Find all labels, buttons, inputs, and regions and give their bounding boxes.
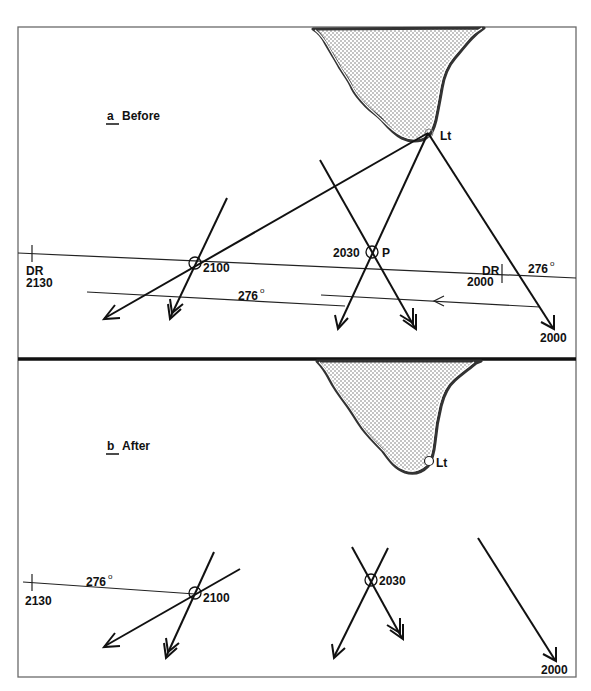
double-arrowhead-icon	[400, 308, 413, 323]
panel-a-title: a Before	[106, 109, 160, 124]
fix-p-label: P	[382, 246, 390, 260]
track-line-lower-left	[87, 292, 345, 306]
light-marker-b	[425, 457, 434, 466]
arrowhead-icon	[541, 315, 554, 329]
fix-2100-label-b: 2100	[203, 591, 230, 605]
course-label-right-a: 276	[528, 262, 548, 276]
transferred-line-2030	[320, 160, 415, 328]
position-line-2000-b	[478, 538, 555, 660]
svg-text:Before: Before	[122, 109, 160, 123]
light-label-a: Lt	[440, 129, 451, 143]
dr-2130-label-b: 2130	[25, 594, 52, 608]
bearing-2000-label-a: 2000	[540, 331, 567, 345]
svg-text:a: a	[107, 109, 114, 123]
position-line-2030-a-b	[352, 547, 402, 638]
course-label-b: 276	[86, 575, 106, 589]
panel-b-title: b After	[106, 439, 150, 454]
panel-a: Lt a Before DR 2130 DR 2000 276 o 276 o …	[18, 28, 576, 345]
dr-2000-time: 2000	[467, 275, 494, 289]
headland-b	[317, 361, 481, 473]
dr-2130-time-a: 2130	[26, 276, 53, 290]
dr-course-line-b	[23, 582, 195, 594]
fix-2030-label-b: 2030	[379, 574, 406, 588]
arrowhead-icon	[104, 633, 120, 647]
light-label-b: Lt	[436, 456, 447, 470]
panel-b: Lt b After 2130 276 o 2100 2030 2000	[23, 361, 568, 677]
running-fix-diagram: Lt a Before DR 2130 DR 2000 276 o 276 o …	[0, 0, 591, 691]
position-line-2100-a-b	[105, 569, 240, 646]
arrowhead-icon	[104, 305, 120, 319]
degree-symbol: o	[550, 259, 555, 268]
degree-symbol: o	[260, 286, 265, 295]
svg-text:After: After	[122, 439, 150, 453]
track-line-lower-right	[321, 295, 540, 307]
fix-2100-label-a: 2100	[203, 261, 230, 275]
double-arrowhead-icon	[387, 618, 400, 633]
svg-text:b: b	[107, 439, 114, 453]
headland-a	[313, 28, 484, 141]
degree-symbol: o	[108, 572, 113, 581]
bearing-line-lt-2100	[105, 133, 428, 318]
bearing-line-lt-2000	[428, 133, 553, 328]
fix-2030-label-a: 2030	[333, 246, 360, 260]
arrowhead-icon	[543, 647, 556, 661]
bearing-2000-label-b: 2000	[541, 663, 568, 677]
course-label-lower-a: 276	[238, 289, 258, 303]
